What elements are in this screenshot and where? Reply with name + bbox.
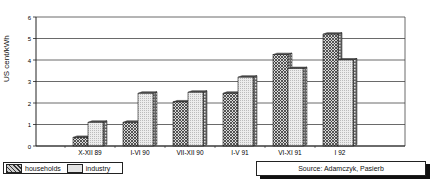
industry-swatch [67, 164, 83, 173]
bar-industry [138, 92, 157, 146]
y-tick-label: 4 [28, 58, 32, 64]
bar-industry [338, 59, 357, 147]
y-tick-label: 3 [28, 79, 32, 85]
x-tick-label: X-XII 89 [78, 149, 102, 156]
bar-industry [88, 121, 107, 146]
y-tick-label: 2 [28, 101, 32, 107]
bar-industry [288, 67, 307, 146]
bar-industry [188, 91, 207, 146]
source-note: Source: Adamczyk, Pasierb [256, 161, 426, 176]
bars [73, 33, 357, 146]
y-axis-label: US cent/kWh [2, 35, 11, 82]
y-tick-label: 1 [28, 122, 32, 128]
x-tick-label: VII-XII 90 [176, 149, 203, 156]
legend-industry: industry [86, 165, 111, 172]
y-tick-label: 6 [28, 15, 32, 21]
households-swatch [6, 164, 22, 173]
bar-chart: 0123456X-XII 89I-VI 90VII-XII 90I-V 91VI… [0, 0, 438, 160]
legend: households industry [3, 162, 123, 174]
y-tick-label: 0 [28, 144, 32, 150]
x-tick-label: I-VI 90 [130, 149, 150, 156]
x-tick-label: I-V 91 [231, 149, 249, 156]
bar-industry [238, 76, 257, 146]
x-tick-label: VI-XI 91 [278, 149, 302, 156]
x-tick-label: I 92 [335, 149, 346, 156]
y-tick-label: 5 [28, 36, 32, 42]
legend-households: households [25, 165, 61, 172]
